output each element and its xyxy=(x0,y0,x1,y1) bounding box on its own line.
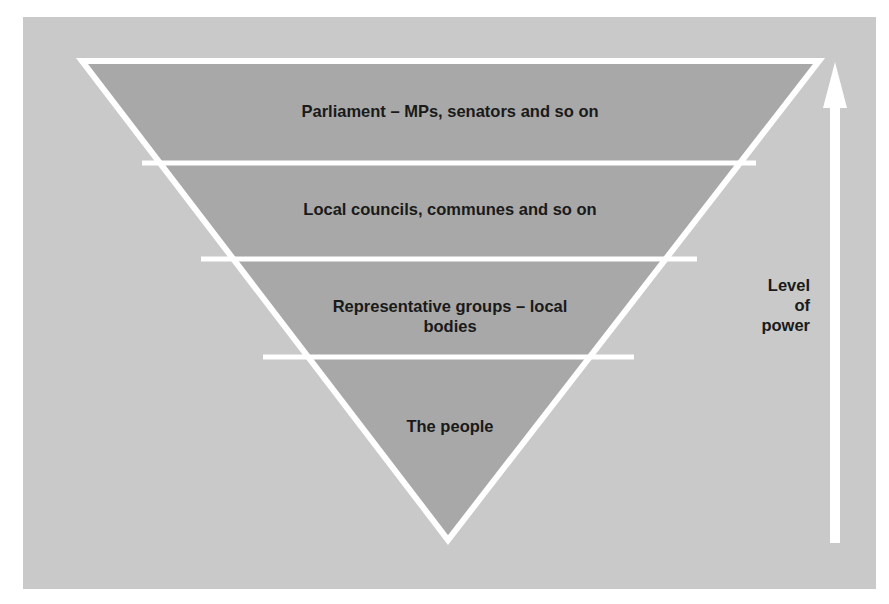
band-label-representative-groups: Representative groups – local bodies xyxy=(250,296,650,336)
arrow-up-icon xyxy=(823,62,847,543)
band-label-the-people: The people xyxy=(350,416,550,436)
axis-label-line: power xyxy=(720,315,810,335)
axis-label-level-of-power: Level of power xyxy=(720,275,810,335)
axis-label-line: Level xyxy=(720,275,810,295)
band-label-parliament: Parliament – MPs, senators and so on xyxy=(200,101,700,121)
band-label-local-councils: Local councils, communes and so on xyxy=(200,199,700,219)
axis-label-line: of xyxy=(720,295,810,315)
band-label-line: bodies xyxy=(250,316,650,336)
band-label-line: Representative groups – local xyxy=(250,296,650,316)
